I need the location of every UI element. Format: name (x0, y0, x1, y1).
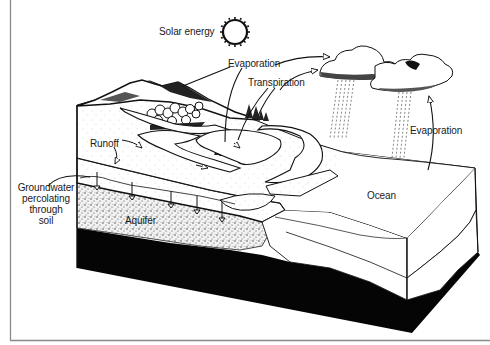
sun-icon (220, 17, 250, 47)
label-groundwater: Groundwater percolating through soil (14, 182, 78, 226)
label-evaporation-land: Evaporation (228, 58, 280, 69)
water-cycle-diagram: Solar energy Evaporation Transpiration E… (0, 0, 490, 345)
label-evaporation-ocean: Evaporation (410, 125, 462, 136)
label-aquifer: Aquifer (125, 215, 156, 226)
diagram-artwork (0, 0, 490, 345)
label-transpiration: Transpiration (248, 77, 305, 88)
label-groundwater-line-3: through (14, 204, 78, 215)
label-runoff: Runoff (90, 138, 119, 149)
label-solar-energy: Solar energy (159, 26, 215, 37)
label-ocean: Ocean (367, 190, 396, 201)
label-groundwater-line-4: soil (14, 215, 78, 226)
label-groundwater-line-1: Groundwater (14, 182, 78, 193)
label-groundwater-line-2: percolating (14, 193, 78, 204)
cloud-icon (320, 46, 453, 92)
